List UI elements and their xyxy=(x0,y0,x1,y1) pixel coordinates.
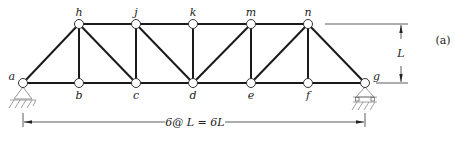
member-hc xyxy=(79,24,136,83)
arrowhead-up-icon xyxy=(399,25,402,33)
joint-label-g: g xyxy=(373,70,380,83)
joint-b xyxy=(75,79,84,88)
joint-label-e: e xyxy=(248,89,255,102)
span-dimension: 6@ L = 6L xyxy=(23,113,365,129)
joint-j xyxy=(132,20,141,29)
joint-label-b: b xyxy=(75,89,82,102)
joint-label-j: j xyxy=(131,6,138,19)
panel-label: (a) xyxy=(435,34,450,47)
arrowhead-left-icon xyxy=(24,120,32,123)
arrowhead-right-icon xyxy=(356,120,364,123)
joint-label-d: d xyxy=(189,89,196,102)
joint-k xyxy=(189,20,198,29)
joint-c xyxy=(132,79,141,88)
joint-n xyxy=(304,20,313,29)
joint-g xyxy=(361,79,370,88)
member-dm xyxy=(193,24,251,83)
height-label: L xyxy=(396,47,404,60)
joint-label-a: a xyxy=(8,70,15,83)
joint-e xyxy=(247,79,256,88)
joint-label-c: c xyxy=(133,89,139,102)
pin-support-a xyxy=(9,87,36,108)
arrowhead-down-icon xyxy=(399,74,402,82)
member-ah xyxy=(23,24,79,83)
joint-label-f: f xyxy=(305,89,312,102)
member-en xyxy=(251,24,308,83)
joint-a xyxy=(19,79,28,88)
joint-d xyxy=(189,79,198,88)
joint-f xyxy=(304,79,313,88)
span-label: 6@ L = 6L xyxy=(165,116,224,129)
joint-label-h: h xyxy=(75,6,82,19)
joint-h xyxy=(75,20,84,29)
joint-label-n: n xyxy=(304,6,311,19)
truss-diagram: 6@ L = 6L L (a) abcdefghjkmn xyxy=(0,0,455,141)
joint-m xyxy=(247,20,256,29)
truss-members xyxy=(23,24,365,83)
joint-label-k: k xyxy=(190,6,197,19)
roller-support-g xyxy=(352,87,377,110)
member-ng xyxy=(308,24,365,83)
member-jd xyxy=(136,24,193,83)
joint-label-m: m xyxy=(246,6,256,19)
